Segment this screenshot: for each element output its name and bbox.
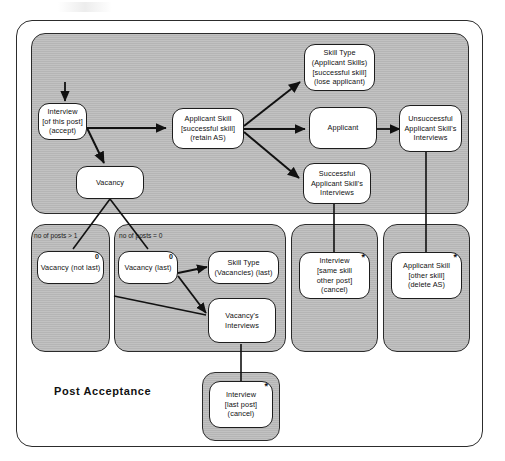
node-line: Successful [319,169,355,179]
condition-label-posts-gt-1: no of posts > 1 [34,232,77,239]
node-marker: * [264,382,268,390]
node-vacancy-not-last[interactable]: 0 Vacancy (not last) [37,251,104,284]
node-line: Unsuccessful [408,114,453,124]
panel-posts-gt-1 [31,224,110,352]
node-line: (Vacancies) (last) [214,268,272,278]
node-line: [other skill] [408,271,444,281]
node-line: (accept) [49,126,76,136]
node-marker: * [453,253,457,261]
node-interview-of-this-post[interactable]: Interview [of this post] (accept) [38,103,87,140]
node-line: (cancel) [321,285,348,295]
node-interview-last-post[interactable]: * Interview [last post] (cancel) [209,381,273,428]
scan-artifact [58,2,148,12]
node-vacancy[interactable]: Vacancy [76,166,144,199]
node-applicant-skill-successful[interactable]: Applicant Skill [successful skill] (reta… [172,108,244,149]
node-unsuccessful-applicant-skills-interviews[interactable]: Unsuccessful Applicant Skill's Interview… [399,105,462,152]
node-line: Vacancy (not last) [41,263,101,273]
node-line: [last post] [225,400,257,410]
node-line: (delete AS) [408,280,445,290]
node-line: Skill Type [227,258,259,268]
node-line: Applicant Skill [185,114,232,124]
node-line: [of this post] [42,117,83,127]
node-line: (Applicant Skills) [312,58,368,68]
node-skill-type-applicant-skills[interactable]: Skill Type (Applicant Skills) [successfu… [304,44,375,91]
node-line: Interviews [320,188,354,198]
node-marker: 0 [95,253,99,261]
node-line: Vacancy [96,178,124,188]
node-line: Interview [226,390,256,400]
node-line: Skill Type [323,48,355,58]
node-line: Applicant Skill's [311,179,363,189]
diagram-title: Post Acceptance [54,385,151,397]
node-line: other post] [317,276,353,286]
node-line: Applicant Skill's [404,124,456,134]
node-line: [successful skill] [312,68,366,78]
node-successful-applicant-skills-interviews[interactable]: Successful Applicant Skill's Interviews [303,163,371,204]
node-vacancy-last[interactable]: 0 Vacancy (last) [118,251,178,284]
node-marker: * [361,253,365,261]
node-line: (lose applicant) [314,77,365,87]
node-line: Interviews [414,133,448,143]
node-line: Interviews [225,321,259,331]
node-skill-type-vacancies[interactable]: Skill Type (Vacancies) (last) [208,251,279,284]
diagram-canvas: Interview [of this post] (accept) Vacanc… [0,0,505,461]
condition-label-posts-eq-0: no of posts = 0 [119,232,162,239]
node-interview-same-skill-other-post[interactable]: * Interview [same skill other post] (can… [299,252,370,299]
node-vacancys-interviews[interactable]: Vacancy's Interviews [208,298,276,343]
node-applicant[interactable]: Applicant [309,107,377,149]
node-line: Vacancy (last) [124,263,171,273]
node-line: Interview [319,256,349,266]
node-line: Vacancy's [225,311,258,321]
node-applicant-skill-other-skill[interactable]: * Applicant Skill [other skill] (delete … [391,252,462,299]
node-line: (retain AS) [190,133,226,143]
node-line: Applicant Skill [403,261,450,271]
node-line: [successful skill] [181,124,235,134]
node-line: Applicant [328,123,359,133]
node-line: Interview [47,107,77,117]
node-line: (cancel) [228,409,255,419]
node-line: [same skill [317,266,352,276]
node-marker: 0 [169,253,173,261]
